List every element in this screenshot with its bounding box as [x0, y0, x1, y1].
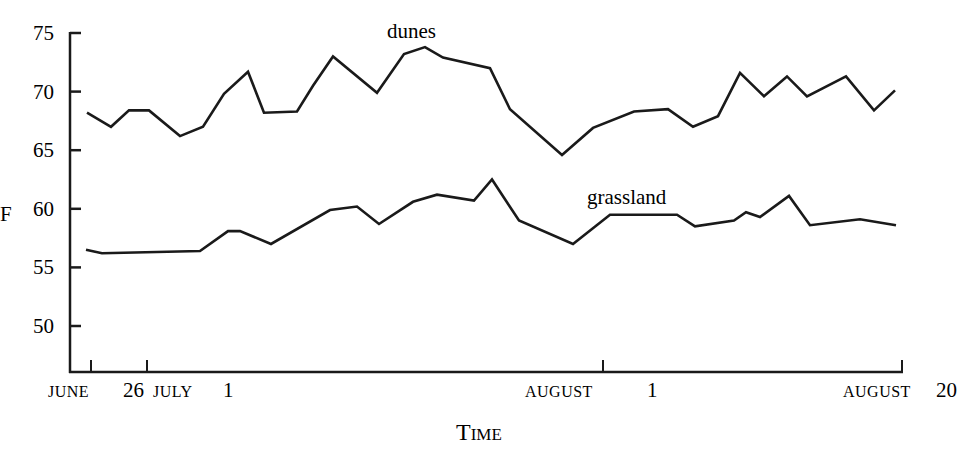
series-line-dunes — [87, 47, 895, 155]
y-tick-label: 75 — [33, 21, 54, 45]
y-tick-label: 55 — [33, 255, 54, 279]
x-tick-label-month: JUNE — [48, 383, 89, 400]
temperature-line-chart: 505560657075 JUNE26JULY1AUGUST1AUGUST20 … — [0, 0, 976, 455]
series-label-dunes: dunes — [387, 19, 436, 43]
y-axis-unit-label: F — [0, 202, 12, 226]
y-tick-label: 70 — [33, 80, 54, 104]
x-tick-label-day: 20 — [936, 378, 957, 402]
y-tick-label: 60 — [33, 197, 54, 221]
series-line-grassland — [86, 180, 896, 254]
x-tick-label-month: JULY — [153, 383, 193, 400]
y-tick-label: 50 — [33, 314, 54, 338]
x-axis-title: TIME — [456, 419, 502, 445]
series-label-grassland: grassland — [587, 185, 667, 209]
x-ticks: JUNE26JULY1AUGUST1AUGUST20 — [48, 360, 957, 402]
x-tick-label-day: 1 — [223, 378, 234, 402]
y-ticks: 505560657075 — [33, 21, 81, 338]
y-tick-label: 65 — [33, 138, 54, 162]
x-tick-label-day: 26 — [123, 378, 144, 402]
x-tick-label-day: 1 — [647, 378, 658, 402]
x-tick-label-month: AUGUST — [525, 383, 593, 400]
x-tick-label-month: AUGUST — [843, 383, 911, 400]
series-lines — [86, 47, 896, 253]
